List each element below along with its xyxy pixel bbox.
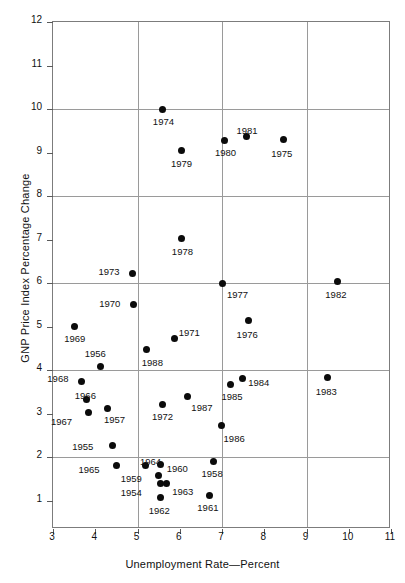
data-point[interactable] (218, 422, 225, 429)
data-point[interactable] (324, 374, 331, 381)
x-tick-label: 10 (336, 531, 360, 542)
y-tick-label: 11 (20, 58, 42, 69)
data-point-label: 1982 (325, 289, 346, 300)
data-point[interactable] (210, 458, 217, 465)
x-tick-label: 9 (294, 531, 318, 542)
data-point-label: 1966 (75, 390, 96, 401)
data-point[interactable] (97, 363, 104, 370)
data-point-label: 1959 (121, 473, 142, 484)
y-tick (47, 283, 53, 284)
data-point-label: 1955 (72, 441, 93, 452)
data-point-label: 1984 (248, 377, 269, 388)
data-point-label: 1963 (172, 486, 193, 497)
y-tick (47, 109, 53, 110)
data-point[interactable] (78, 378, 85, 385)
data-point-label: 1976 (237, 329, 258, 340)
data-point-label: 1975 (271, 148, 292, 159)
data-point-label: 1972 (152, 411, 173, 422)
data-point-label: 1988 (142, 357, 163, 368)
y-tick (47, 22, 53, 23)
data-point[interactable] (159, 401, 166, 408)
data-point-label: 1983 (316, 386, 337, 397)
y-tick (47, 457, 53, 458)
data-point-label: 1978 (172, 246, 193, 257)
y-tick (47, 414, 53, 415)
data-point-label: 1986 (224, 433, 245, 444)
data-point-label: 1987 (191, 402, 212, 413)
y-tick-label: 2 (20, 449, 42, 460)
data-point-label: 1969 (64, 333, 85, 344)
data-point[interactable] (178, 147, 185, 154)
x-tick-label: 8 (251, 531, 275, 542)
data-point-label: 1962 (149, 505, 170, 516)
data-point[interactable] (219, 280, 226, 287)
y-tick (47, 240, 53, 241)
data-point[interactable] (104, 405, 111, 412)
data-point-label: 1974 (153, 116, 174, 127)
data-point-label: 1967 (51, 416, 72, 427)
data-point[interactable] (206, 492, 213, 499)
y-tick (47, 153, 53, 154)
x-tick-label: 6 (167, 531, 191, 542)
y-tick (47, 327, 53, 328)
data-point[interactable] (184, 393, 191, 400)
data-point-label: 1964 (140, 456, 161, 467)
data-point-label: 1971 (179, 327, 200, 338)
data-point[interactable] (143, 346, 150, 353)
data-point-label: 1965 (78, 464, 99, 475)
data-point[interactable] (71, 323, 78, 330)
data-point[interactable] (178, 235, 185, 242)
data-point[interactable] (280, 136, 287, 143)
plot-area: 1954195519561957195819591960196119621963… (52, 21, 390, 528)
data-point-label: 1980 (215, 147, 236, 158)
y-tick (47, 501, 53, 502)
data-point-label: 1968 (47, 373, 68, 384)
scatter-chart: 1954195519561957195819591960196119621963… (0, 0, 405, 583)
x-tick-label: 11 (378, 531, 402, 542)
data-point[interactable] (85, 409, 92, 416)
data-point[interactable] (109, 442, 116, 449)
y-tick-label: 10 (20, 101, 42, 112)
data-point[interactable] (171, 335, 178, 342)
data-point[interactable] (159, 106, 166, 113)
data-point[interactable] (239, 375, 246, 382)
data-point[interactable] (334, 278, 341, 285)
data-point-label: 1979 (171, 158, 192, 169)
data-point-label: 1977 (227, 289, 248, 300)
y-tick-label: 12 (20, 14, 42, 25)
gridline-horizontal (53, 109, 389, 110)
gridline-horizontal (53, 370, 389, 371)
x-tick-label: 5 (125, 531, 149, 542)
data-point-label: 1961 (197, 502, 218, 513)
data-point[interactable] (163, 480, 170, 487)
data-point[interactable] (113, 462, 120, 469)
gridline-vertical (307, 22, 308, 527)
data-point-label: 1954 (121, 487, 142, 498)
y-tick (47, 370, 53, 371)
data-point[interactable] (130, 301, 137, 308)
x-tick-label: 3 (40, 531, 64, 542)
x-tick-label: 4 (82, 531, 106, 542)
y-tick-label: 1 (20, 493, 42, 504)
data-point-label: 1960 (167, 463, 188, 474)
y-axis-title: GNP Price Index Percentage Change (19, 138, 31, 398)
data-point-label: 1957 (104, 414, 125, 425)
data-point-label: 1970 (99, 298, 120, 309)
data-point[interactable] (245, 317, 252, 324)
data-point-label: 1985 (221, 391, 242, 402)
data-point-label: 1956 (85, 348, 106, 359)
data-point[interactable] (221, 137, 228, 144)
data-point-label: 1973 (98, 266, 119, 277)
data-point-label: 1958 (202, 468, 223, 479)
x-tick-label: 7 (209, 531, 233, 542)
gridline-vertical (222, 22, 223, 527)
data-point[interactable] (155, 472, 162, 479)
data-point[interactable] (129, 270, 136, 277)
y-tick (47, 66, 53, 67)
data-point[interactable] (227, 381, 234, 388)
gridline-horizontal (53, 196, 389, 197)
data-point-label: 1981 (237, 125, 258, 136)
gridline-vertical (138, 22, 139, 527)
y-tick (47, 196, 53, 197)
data-point[interactable] (157, 494, 164, 501)
